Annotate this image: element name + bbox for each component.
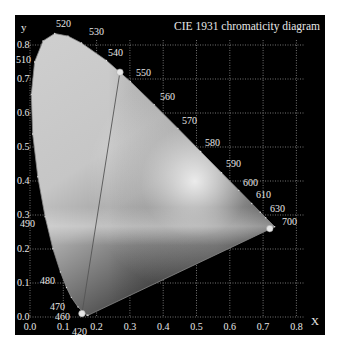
locus-tick [60, 271, 61, 272]
locus-tick [177, 128, 178, 129]
locus-tick [86, 315, 87, 316]
wavelength-label: 520 [56, 18, 71, 29]
locus-tick [274, 226, 275, 227]
primary-red-dot [266, 225, 273, 232]
locus-tick [67, 35, 68, 36]
wavelength-label: 570 [182, 115, 197, 126]
locus-tick [54, 33, 55, 34]
x-tick-label: 0.4 [157, 321, 170, 332]
wavelength-label: 600 [243, 177, 258, 188]
locus-tick [260, 211, 261, 212]
y-tick-label: 0.2 [17, 243, 30, 254]
x-tick-label: 0.1 [57, 321, 70, 332]
y-tick-label: 0.6 [17, 107, 30, 118]
y-tick-label: 0.4 [17, 175, 30, 186]
x-tick-label: 0.7 [257, 321, 270, 332]
wavelength-label: 460 [55, 311, 70, 322]
locus-tick [265, 217, 266, 218]
wavelength-label: 700 [282, 216, 297, 227]
wavelength-label: 480 [40, 275, 55, 286]
locus-tick [106, 60, 107, 61]
locus-tick [221, 172, 222, 173]
locus-tick [42, 40, 43, 41]
wavelength-label: 580 [205, 137, 220, 148]
wavelength-label: 630 [270, 203, 285, 214]
wavelength-label: 590 [226, 158, 241, 169]
x-tick-label: 0.6 [224, 321, 237, 332]
locus-tick [77, 306, 78, 307]
y-tick-label: 0.0 [17, 311, 30, 322]
x-tick-label: 0.2 [90, 321, 103, 332]
locus-tick [44, 216, 45, 217]
wavelength-label: 560 [160, 91, 175, 102]
y-tick-label: 0.1 [17, 277, 30, 288]
wavelength-label: 610 [256, 189, 271, 200]
wavelength-label: 420 [72, 326, 87, 337]
locus-tick [251, 203, 252, 204]
wavelength-label: 490 [20, 218, 35, 229]
locus-tick [81, 42, 82, 43]
x-tick-label: 0.8 [290, 321, 303, 332]
chromaticity-chart: 0.00.10.20.30.40.50.60.70.80.00.10.20.30… [0, 0, 340, 350]
locus-tick [66, 287, 67, 288]
wavelength-label: 550 [136, 67, 151, 78]
locus-tick [154, 104, 155, 105]
locus-tick [71, 297, 72, 298]
locus-tick [130, 81, 131, 82]
x-tick-label: 0.5 [190, 321, 203, 332]
wavelength-label: 540 [108, 47, 123, 58]
locus-tick [200, 151, 201, 152]
wavelength-label: 510 [16, 54, 31, 65]
primary-green-dot [117, 69, 124, 76]
y-tick-label: 0.8 [17, 39, 30, 50]
locus-tick [31, 94, 32, 95]
y-tick-label: 0.7 [17, 73, 30, 84]
chart-canvas: 0.00.10.20.30.40.50.60.70.80.00.10.20.30… [0, 0, 340, 350]
locus-tick [34, 61, 35, 62]
x-tick-label: 0.3 [124, 321, 137, 332]
x-axis-label: X [311, 315, 319, 327]
x-tick-label: 0.0 [24, 321, 37, 332]
locus-tick [52, 248, 53, 249]
y-axis-label: y [21, 21, 27, 33]
primary-blue-dot [79, 310, 86, 317]
wavelength-label: 530 [89, 26, 104, 37]
locus-tick [37, 176, 38, 177]
locus-tick [32, 133, 33, 134]
locus-tick [238, 190, 239, 191]
chart-title: CIE 1931 chromaticity diagram [174, 20, 320, 33]
y-tick-label: 0.5 [17, 141, 30, 152]
